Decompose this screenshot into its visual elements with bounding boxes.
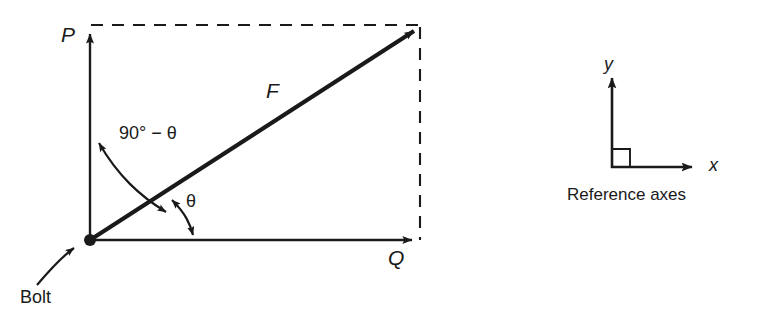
angle-theta-label: θ xyxy=(186,192,196,210)
bolt-origin-dot xyxy=(84,234,96,246)
reference-axes-group xyxy=(611,78,692,168)
angle-arc-complement xyxy=(99,143,166,212)
right-angle-marker xyxy=(612,149,630,167)
force-vector-diagram: P F Q 90° − θ θ Bolt y x Reference axes xyxy=(0,0,770,320)
reference-y-label: y xyxy=(604,55,613,73)
vector-p-label: P xyxy=(61,24,75,45)
reference-x-label: x xyxy=(709,156,718,174)
diagram-canvas xyxy=(0,0,770,320)
angle-complement-label: 90° − θ xyxy=(119,124,177,142)
bolt-label: Bolt xyxy=(20,288,51,306)
reference-axes-caption: Reference axes xyxy=(567,186,686,203)
bolt-leader-line xyxy=(37,248,74,285)
vector-f-label: F xyxy=(266,80,279,101)
vector-q-label: Q xyxy=(388,247,404,268)
